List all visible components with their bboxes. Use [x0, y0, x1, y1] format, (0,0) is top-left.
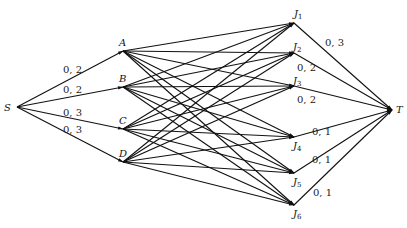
node-label: C [119, 115, 127, 126]
edge-d-j6 [123, 162, 294, 205]
node-b: B [118, 73, 126, 84]
edge-labels-layer: 0, 20, 20, 30, 30, 30, 20, 20, 10, 10, 1 [63, 37, 344, 198]
node-label: S [4, 102, 11, 113]
edge-j5-t [294, 110, 392, 173]
edge-label-s-c: 0, 3 [63, 107, 82, 118]
edge-label-j2-t: 0, 2 [297, 62, 316, 73]
edge-label-j1-t: 0, 3 [325, 37, 344, 48]
node-t: T [396, 104, 404, 115]
node-label: D [118, 148, 127, 159]
node-s: S [4, 102, 11, 113]
edge-b-j3 [123, 86, 294, 87]
node-subscript: 3 [297, 80, 301, 88]
edge-s-a [17, 51, 123, 107]
edge-a-j3 [123, 51, 294, 86]
node-d: D [118, 148, 127, 159]
node-subscript: 5 [297, 181, 301, 189]
node-j1: J1 [292, 8, 302, 21]
node-label: B [118, 73, 126, 84]
edge-d-j5 [123, 162, 294, 173]
edge-a-j6 [123, 51, 294, 205]
edge-c-j1 [123, 23, 294, 129]
edge-label-j4-t: 0, 1 [312, 126, 331, 137]
node-subscript: 1 [298, 13, 302, 21]
edge-a-j1 [123, 23, 294, 51]
edge-label-j6-t: 0, 1 [313, 187, 332, 198]
edge-label-s-b: 0, 2 [63, 84, 82, 95]
edge-b-j1 [123, 23, 294, 87]
edge-label-s-d: 0, 3 [63, 124, 82, 135]
edge-j6-t [294, 110, 392, 205]
node-subscript: 6 [297, 213, 302, 221]
node-a: A [118, 37, 126, 48]
node-j2: J2 [291, 41, 301, 54]
node-j5: J5 [291, 176, 301, 189]
edge-label-j5-t: 0, 1 [312, 154, 331, 165]
node-subscript: 4 [297, 145, 302, 153]
edge-a-j2 [123, 51, 294, 53]
node-j6: J6 [291, 208, 302, 221]
node-subscript: 2 [297, 46, 301, 54]
node-label: A [118, 37, 126, 48]
edge-label-j3-t: 0, 2 [297, 94, 316, 105]
node-j4: J4 [291, 140, 302, 153]
edge-label-s-a: 0, 2 [63, 64, 82, 75]
node-c: C [119, 115, 127, 126]
flow-network-diagram: 0, 20, 20, 30, 30, 30, 20, 20, 10, 10, 1… [0, 0, 407, 228]
node-label: T [396, 104, 404, 115]
